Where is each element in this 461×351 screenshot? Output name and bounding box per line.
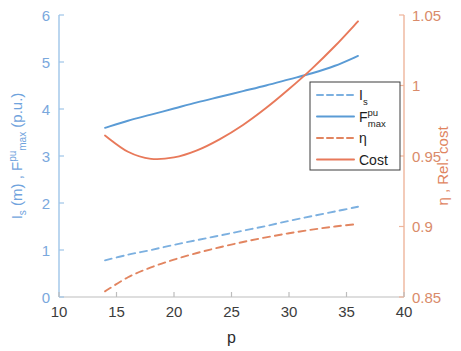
- left-tick-label: 2: [42, 195, 50, 212]
- x-axis-label: p: [227, 329, 236, 346]
- chart-legend: IsFpumaxηCost: [310, 82, 400, 170]
- legend-label: Cost: [359, 152, 388, 168]
- x-tick-label: 25: [223, 303, 240, 320]
- x-tick-label: 30: [281, 303, 298, 320]
- chart-canvas: 01234560.850.90.9511.0510152025303540 Is…: [0, 0, 461, 351]
- left-tick-label: 4: [42, 101, 50, 118]
- svg-text:η , Rel. cost: η , Rel. cost: [434, 126, 451, 206]
- x-tick-label: 10: [51, 303, 68, 320]
- right-tick-label: 1.05: [412, 7, 441, 24]
- x-tick-label: 35: [338, 303, 355, 320]
- x-tick-label: 15: [108, 303, 125, 320]
- left-tick-label: 6: [42, 7, 50, 24]
- legend-superscript: pu: [368, 107, 379, 118]
- left-tick-label: 3: [42, 148, 50, 165]
- left-tick-label: 1: [42, 242, 50, 259]
- left-tick-label: 5: [42, 54, 50, 71]
- chart-background: [0, 0, 461, 351]
- legend-subscript: s: [363, 96, 368, 107]
- right-tick-label: 1: [412, 77, 420, 94]
- x-tick-label: 20: [166, 303, 183, 320]
- legend-subscript: max: [368, 118, 386, 129]
- left-tick-label: 0: [42, 289, 50, 306]
- right-tick-label: 0.85: [412, 289, 441, 306]
- right-axis-label: η , Rel. cost: [434, 126, 451, 206]
- legend-label: η: [359, 130, 367, 146]
- x-tick-label: 40: [396, 303, 413, 320]
- right-tick-label: 0.9: [412, 218, 433, 235]
- figure-container: 01234560.850.90.9511.0510152025303540 Is…: [0, 0, 461, 351]
